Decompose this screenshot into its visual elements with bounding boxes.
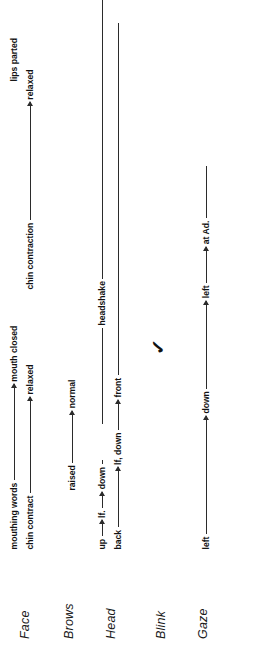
arrow-icon [30,397,31,493]
face-state-chin-contract: chin contract [26,494,35,551]
arrow-icon [102,492,103,508]
connector-rule [118,23,119,375]
face-state-mouth-closed: mouth closed [10,324,19,383]
row-label-head: Head [104,608,118,639]
brows-state-raised: raised [68,464,77,492]
track-face-chin-contraction: chin contraction relaxed [26,68,35,291]
track-head-headshake: headshake [98,0,107,425]
face-state-relaxed: relaxed [26,363,35,396]
connector-rule [102,328,103,424]
arrow-icon [206,247,207,283]
row-gaze: Gaze left down left at Ad. [182,0,226,647]
head-state-front: front [114,376,123,399]
arrow-icon [118,400,119,430]
gaze-state-at-ad: at Ad. [202,219,211,246]
arrow-icon [14,384,15,480]
arrow-icon [30,102,31,220]
face-state-lips-parted: lips parted [10,37,19,83]
connector-rule [102,0,103,279]
connector-rule [206,166,207,218]
track-face-chin: chin contract relaxed [26,363,35,551]
brows-state-normal: normal [68,378,77,410]
figure-root: Face mouthing words mouth closed chin co… [0,0,264,647]
track-gaze-main: left down left at Ad. [202,165,211,551]
row-head: Head up lf. down headshake back lf, down [90,0,134,647]
arrow-icon [72,411,73,463]
gaze-state-down: down [202,390,211,415]
arrow-icon [102,521,103,537]
arrow-icon [118,467,119,527]
head-state-lf-down: lf, down [114,431,123,466]
gaze-state-left-2: left [202,284,211,300]
track-brows-main: raised normal [68,378,77,492]
head-state-back: back [114,528,123,551]
row-brows: Brows raised normal [48,0,92,647]
row-face: Face mouthing words mouth closed chin co… [4,0,48,647]
arrow-icon [206,416,207,534]
head-state-down: down [98,465,107,490]
head-state-lf: lf. [98,509,107,520]
arrow-icon [206,301,207,389]
row-label-brows: Brows [62,603,76,639]
blink-check-icon: ✓ [150,339,167,355]
row-label-blink: Blink [154,611,168,639]
head-state-headshake: headshake [98,280,107,327]
row-label-face: Face [18,610,32,639]
track-face-mouth: mouthing words mouth closed [10,324,19,551]
face-state-relaxed-2: relaxed [26,68,35,101]
row-blink: Blink ✓ [140,0,184,647]
connector-rule [102,460,103,464]
face-state-mouthing-words: mouthing words [10,481,19,551]
track-head-upper: up lf. down [98,459,107,551]
track-head-lower: back lf, down front [114,22,123,551]
track-face-lips: lips parted [10,37,19,83]
head-state-up: up [98,538,107,552]
face-state-chin-contraction: chin contraction [26,221,35,291]
timeline-canvas: Face mouthing words mouth closed chin co… [0,0,264,647]
gaze-state-left: left [202,535,211,551]
row-label-gaze: Gaze [196,608,210,639]
